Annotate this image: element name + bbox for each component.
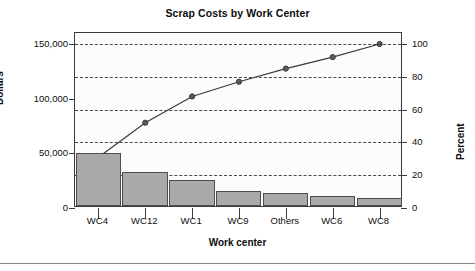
pareto-chart-figure: Scrap Costs by Work Center Dollars Perce…: [0, 0, 475, 271]
gridline: [75, 44, 401, 45]
bar[interactable]: [357, 198, 402, 206]
footer-divider: [0, 263, 475, 264]
y-tick-mark-left: [69, 99, 75, 100]
y-tick-label-right: 100: [412, 37, 452, 48]
gridline: [75, 142, 401, 143]
bar[interactable]: [76, 153, 121, 206]
y-axis-label-percent: Percent: [455, 123, 466, 160]
y-tick-label-right: 60: [412, 103, 452, 114]
y-tick-mark-right: [401, 175, 407, 176]
y-tick-label-right: 80: [412, 70, 452, 81]
y-axis-label-dollars: Dollars: [0, 71, 5, 105]
cumulative-point-marker[interactable]: [190, 94, 195, 99]
y-tick-label-left: 0: [6, 202, 68, 213]
y-tick-mark-left: [69, 208, 75, 209]
cumulative-point-marker[interactable]: [143, 120, 148, 125]
y-tick-mark-left: [69, 44, 75, 45]
y-tick-label-right: 40: [412, 136, 452, 147]
y-tick-label-left: 100,000: [6, 92, 68, 103]
cumulative-line-path: [98, 44, 379, 157]
y-tick-mark-right: [401, 77, 407, 78]
gridline: [75, 110, 401, 111]
x-tick-label-wc8: WC8: [344, 215, 414, 226]
bar[interactable]: [122, 172, 167, 206]
cumulative-point-marker[interactable]: [236, 79, 241, 84]
y-tick-mark-right: [401, 110, 407, 111]
y-tick-mark-right: [401, 208, 407, 209]
chart-title: Scrap Costs by Work Center: [0, 7, 475, 19]
cumulative-point-marker[interactable]: [330, 55, 335, 60]
y-tick-mark-right: [401, 44, 407, 45]
bar[interactable]: [263, 193, 308, 206]
bar[interactable]: [216, 191, 261, 206]
bar[interactable]: [169, 180, 214, 206]
y-tick-label-right: 20: [412, 169, 452, 180]
bar[interactable]: [310, 196, 355, 206]
x-axis-label: Work center: [0, 237, 475, 248]
y-tick-label-right: 0: [412, 202, 452, 213]
y-tick-mark-left: [69, 153, 75, 154]
plot-area: [74, 32, 402, 207]
y-tick-label-left: 150,000: [6, 37, 68, 48]
gridline: [75, 77, 401, 78]
y-tick-label-left: 50,000: [6, 147, 68, 158]
y-tick-mark-right: [401, 142, 407, 143]
cumulative-point-marker[interactable]: [283, 66, 288, 71]
